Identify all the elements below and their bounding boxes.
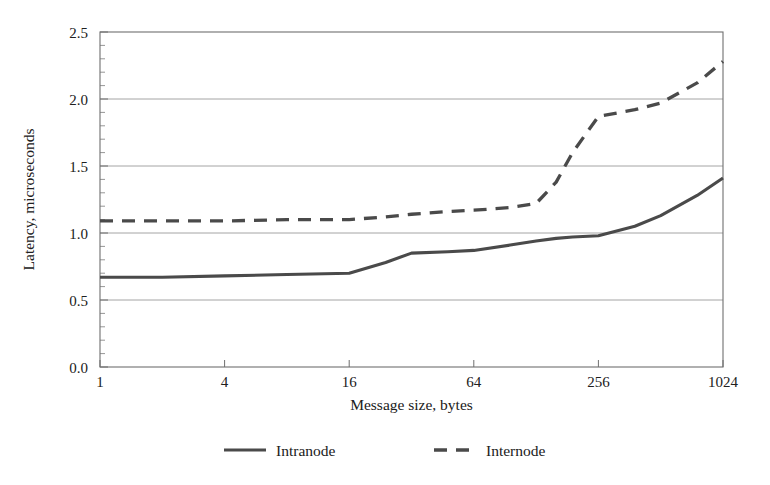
y-tick-label: 2.0: [69, 92, 88, 108]
legend-label-intranode: Intranode: [276, 442, 336, 459]
x-tick-label: 64: [466, 374, 482, 390]
chart-svg: 0.00.51.01.52.02.5 1416642561024 Message…: [0, 0, 770, 485]
latency-line-chart: 0.00.51.01.52.02.5 1416642561024 Message…: [0, 0, 770, 485]
x-tick-label: 16: [342, 374, 358, 390]
x-axis-title: Message size, bytes: [350, 396, 473, 413]
x-tick-label: 1024: [708, 374, 739, 390]
x-tick-label: 1: [96, 374, 104, 390]
x-tick-label: 4: [221, 374, 229, 390]
legend-label-internode: Internode: [486, 442, 546, 459]
y-axis-title: Latency, microseconds: [20, 129, 37, 271]
y-tick-label: 1.5: [69, 159, 88, 175]
y-tick-label: 0.0: [69, 360, 88, 376]
y-tick-label: 2.5: [69, 25, 88, 41]
y-tick-label: 0.5: [69, 293, 88, 309]
y-tick-label: 1.0: [69, 226, 88, 242]
x-tick-label: 256: [587, 374, 610, 390]
